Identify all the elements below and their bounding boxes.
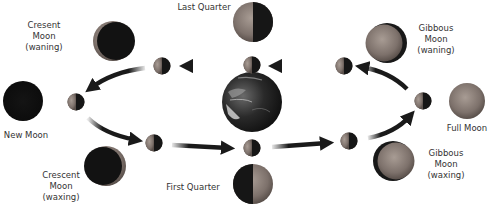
full-moon-icon bbox=[449, 83, 485, 119]
label-new-moon: New Moon bbox=[0, 130, 52, 141]
arrow-upper-left-curve bbox=[91, 68, 145, 88]
gibbous-waxing-moon-icon bbox=[373, 141, 415, 181]
orbital-moon-last-quarter-icon bbox=[244, 57, 261, 74]
orbital-moon-gibbous-waxing-icon bbox=[341, 133, 358, 150]
arrow-lower-right-curve bbox=[368, 116, 410, 138]
arrow-lower-left-curve bbox=[88, 118, 136, 140]
label-last-quarter: Last Quarter bbox=[172, 2, 236, 13]
first-quarter-moon-icon bbox=[233, 164, 273, 204]
orbital-moon-full-icon bbox=[415, 93, 432, 110]
arrow-upper-right-curve bbox=[362, 67, 407, 89]
orbital-moon-new-icon bbox=[68, 94, 85, 111]
label-first-quarter: First Quarter bbox=[158, 182, 228, 193]
label-full-moon: Full Moon bbox=[438, 123, 496, 134]
label-gibbous-waxing: Gibbous Moon (waxing) bbox=[420, 148, 472, 181]
orbital-moon-gibbous-waning-icon bbox=[336, 58, 353, 75]
earth-icon bbox=[222, 72, 282, 132]
moon-phases-diagram: Cresent Moon (waning) Last Quarter Gibbo… bbox=[0, 0, 496, 207]
arrow-bottom-right bbox=[272, 143, 327, 147]
crescent-waning-moon-icon bbox=[93, 21, 135, 61]
label-crescent-waning: Cresent Moon (waning) bbox=[18, 20, 70, 53]
crescent-waxing-moon-icon bbox=[84, 146, 126, 186]
arrow-bottom-left bbox=[172, 145, 228, 148]
gibbous-waning-moon-icon bbox=[366, 23, 408, 63]
new-moon-icon bbox=[3, 81, 43, 121]
label-gibbous-waning: Gibbous Moon (waning) bbox=[410, 23, 462, 56]
orbital-moon-first-quarter-icon bbox=[244, 140, 261, 157]
orbital-moon-crescent-waxing-icon bbox=[146, 135, 163, 152]
label-crescent-waxing: Crescent Moon (waxing) bbox=[34, 170, 88, 203]
last-quarter-moon-icon bbox=[233, 2, 273, 42]
orbital-moon-crescent-waning-icon bbox=[154, 58, 171, 75]
